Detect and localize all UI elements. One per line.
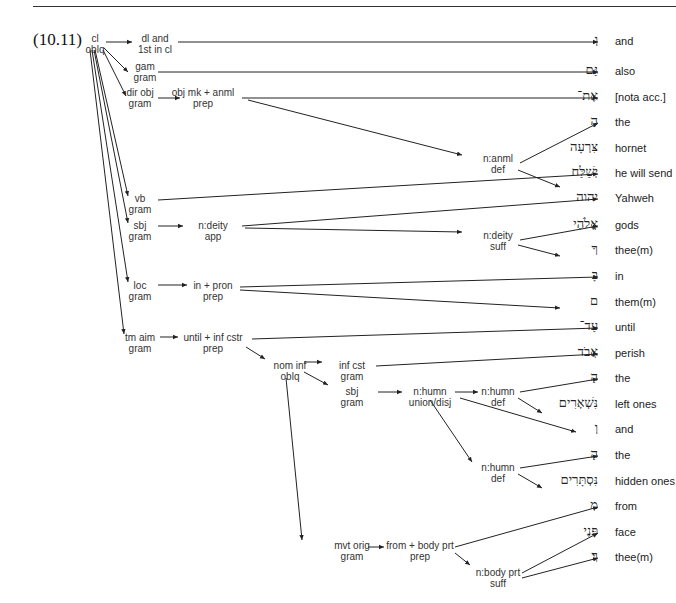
gloss: face bbox=[615, 526, 636, 538]
node-loc: locgram bbox=[129, 280, 152, 302]
gloss: them(m) bbox=[615, 296, 656, 308]
node-category-label: gram bbox=[339, 371, 365, 382]
node-category-label: gram bbox=[129, 291, 152, 302]
node-category-label: def bbox=[481, 473, 514, 484]
hebrew-word: הַ bbox=[518, 113, 598, 129]
gloss: and bbox=[615, 423, 633, 435]
node-function-label: from + body prt bbox=[386, 540, 454, 551]
gloss: in bbox=[615, 270, 624, 282]
gloss: Yahweh bbox=[615, 192, 654, 204]
node-function-label: n:body prt bbox=[476, 567, 520, 578]
node-nanml: n:anmldef bbox=[483, 153, 513, 175]
dependency-arrow bbox=[246, 347, 265, 359]
hebrew-word: אֱלֹהֶי bbox=[518, 216, 598, 232]
node-category-label: gram bbox=[129, 204, 152, 215]
node-objmk: obj mk + anmlprep bbox=[172, 87, 235, 109]
node-function-label: cl bbox=[86, 33, 105, 44]
node-function-label: n:deity bbox=[483, 230, 512, 241]
node-nhumnunion: n:humnunion/disj bbox=[409, 386, 451, 408]
dependency-arrow bbox=[240, 290, 560, 308]
dependency-arrow bbox=[430, 400, 472, 462]
hebrew-word: ךָ׃ bbox=[518, 548, 598, 564]
node-function-label: dir obj bbox=[126, 87, 153, 98]
node-function-label: obj mk + anml bbox=[172, 87, 235, 98]
node-vb: vbgram bbox=[129, 193, 152, 215]
hebrew-word: ךָ bbox=[518, 241, 598, 257]
gloss: hidden ones bbox=[615, 475, 675, 487]
node-category-label: gram bbox=[134, 72, 157, 83]
node-nbody: n:body prtsuff bbox=[476, 567, 520, 589]
hebrew-word: וְ bbox=[518, 420, 598, 436]
node-function-label: sbj bbox=[341, 386, 364, 397]
node-nhumndef1: n:humndef bbox=[481, 386, 514, 408]
node-function-label: gam bbox=[134, 61, 157, 72]
node-category-label: prep bbox=[183, 343, 242, 354]
node-inpron: in + pronprep bbox=[193, 280, 232, 302]
node-infcst: inf cstgram bbox=[339, 360, 365, 382]
node-function-label: inf cst bbox=[339, 360, 365, 371]
node-category-label: suff bbox=[476, 578, 520, 589]
node-mvtorig: mvt origgram bbox=[334, 540, 370, 562]
dependency-arrow bbox=[304, 372, 328, 385]
node-ndeity: n:deityapp bbox=[198, 220, 227, 242]
node-category-label: gram bbox=[126, 98, 153, 109]
node-function-label: tm aim bbox=[125, 332, 155, 343]
hebrew-word: וְ bbox=[518, 32, 598, 48]
node-sbj2: sbjgram bbox=[341, 386, 364, 408]
gloss: from bbox=[615, 500, 637, 512]
hebrew-word: בָּ bbox=[518, 267, 598, 283]
node-until: until + inf cstrprep bbox=[183, 332, 242, 354]
hebrew-word: הַ bbox=[518, 369, 598, 385]
node-function-label: n:humn bbox=[409, 386, 451, 397]
dependency-arrow bbox=[286, 378, 302, 540]
node-category-label: gram bbox=[334, 551, 370, 562]
node-category-label: def bbox=[481, 397, 514, 408]
node-function-label: in + pron bbox=[193, 280, 232, 291]
node-function-label: sbj bbox=[129, 220, 152, 231]
node-category-label: union/disj bbox=[409, 397, 451, 408]
gloss: [nota acc.] bbox=[615, 91, 666, 103]
node-nhumndef2: n:humndef bbox=[481, 462, 514, 484]
node-cl: cloblq bbox=[86, 33, 105, 55]
gloss: the bbox=[615, 372, 630, 384]
node-function-label: n:humn bbox=[481, 386, 514, 397]
gloss: thee(m) bbox=[615, 244, 653, 256]
node-ndeitysuff: n:deitysuff bbox=[483, 230, 512, 252]
node-function-label: n:anml bbox=[483, 153, 513, 164]
hebrew-word: ם bbox=[518, 293, 598, 309]
node-function-label: loc bbox=[129, 280, 152, 291]
dependency-arrow bbox=[103, 50, 126, 96]
hebrew-word: יהוה bbox=[518, 189, 598, 205]
gloss: perish bbox=[615, 347, 645, 359]
node-category-label: app bbox=[198, 231, 227, 242]
node-category-label: prep bbox=[386, 551, 454, 562]
node-dirobj: dir objgram bbox=[126, 87, 153, 109]
gloss: left ones bbox=[615, 398, 657, 410]
gloss: until bbox=[615, 321, 635, 333]
hebrew-word: פָּנֶי bbox=[518, 523, 598, 539]
node-function-label: mvt orig bbox=[334, 540, 370, 551]
gloss: gods bbox=[615, 219, 639, 231]
node-tmaim: tm aimgram bbox=[125, 332, 155, 354]
node-frombody: from + body prtprep bbox=[386, 540, 454, 562]
dependency-arrow bbox=[94, 50, 128, 223]
node-nominf: nom infoblq bbox=[274, 360, 307, 382]
gloss: and bbox=[615, 35, 633, 47]
node-category-label: prep bbox=[172, 98, 235, 109]
dependency-arrow bbox=[92, 50, 128, 282]
gloss: also bbox=[615, 65, 635, 77]
gloss: hornet bbox=[615, 142, 646, 154]
gloss: he will send bbox=[615, 167, 672, 179]
dependency-arrow bbox=[248, 100, 462, 155]
dependency-arrow bbox=[245, 228, 462, 232]
node-category-label: 1st in cl bbox=[138, 44, 172, 55]
dependency-arrow bbox=[455, 553, 470, 565]
hebrew-word: אֲבֹד bbox=[518, 344, 598, 360]
hebrew-word: יְשַׁלַּח bbox=[518, 164, 598, 180]
node-category-label: gram bbox=[341, 397, 364, 408]
node-sbj: sbjgram bbox=[129, 220, 152, 242]
hebrew-word: מִ bbox=[518, 497, 598, 513]
dependency-arrow bbox=[90, 50, 124, 334]
node-category-label: gram bbox=[129, 231, 152, 242]
node-category-label: suff bbox=[483, 241, 512, 252]
